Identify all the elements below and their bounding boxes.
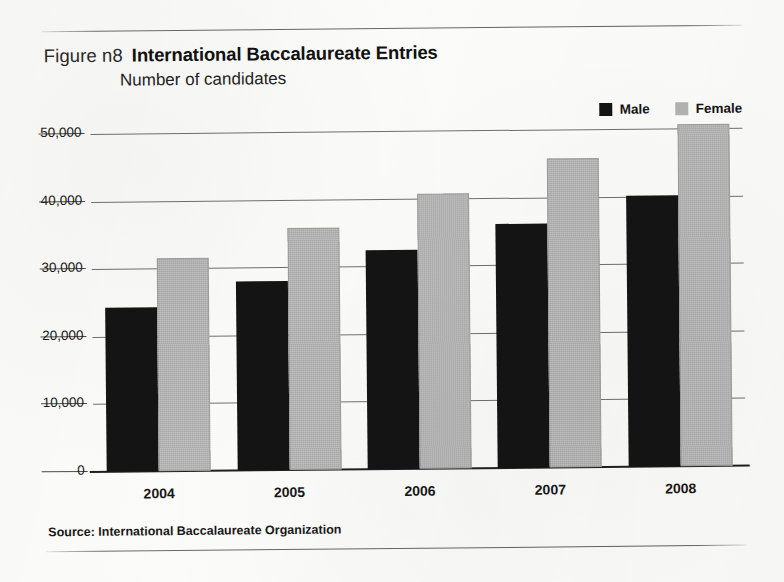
bar-series-container	[90, 128, 745, 472]
top-divider-rule	[41, 25, 741, 33]
bar-group-2006	[351, 130, 485, 469]
title-line: Figure n8 International Baccalaureate En…	[44, 40, 644, 68]
bar-female-2004[interactable]	[157, 258, 211, 471]
x-tick-label-2005: 2005	[274, 484, 305, 500]
x-tick-label-2008: 2008	[665, 480, 696, 496]
bar-male-2004[interactable]	[105, 307, 159, 472]
bar-group-2008	[612, 128, 746, 467]
legend-label-male: Male	[620, 102, 650, 117]
bar-female-2007[interactable]	[547, 158, 602, 467]
bar-male-2007[interactable]	[496, 223, 550, 468]
x-label-cell: 2004	[94, 471, 225, 503]
bar-male-2006[interactable]	[366, 250, 420, 470]
x-label-cell: 2005	[224, 469, 355, 501]
page-title: International Baccalaureate Entries	[132, 42, 438, 67]
bar-male-2008[interactable]	[626, 195, 681, 467]
bar-female-2006[interactable]	[417, 193, 472, 469]
bottom-divider-rule	[46, 545, 746, 553]
y-tick-label: 10,000	[43, 395, 84, 410]
x-label-cell: 2008	[615, 466, 746, 498]
y-tick-label: 0	[77, 463, 85, 478]
bar-group-2004	[90, 133, 224, 472]
bar-group-2007	[482, 129, 616, 468]
y-tick-label: 20,000	[42, 327, 83, 342]
legend-swatch-female	[676, 102, 689, 115]
bar-female-2005[interactable]	[287, 228, 341, 470]
y-tick-label: 50,000	[40, 125, 81, 140]
chart-legend: Male Female	[600, 101, 743, 117]
x-tick-label-2004: 2004	[143, 485, 174, 501]
figure-number-label: Figure n8	[44, 45, 123, 68]
bar-female-2008[interactable]	[677, 124, 732, 467]
legend-item-male[interactable]: Male	[600, 102, 650, 117]
y-tick-label: 40,000	[41, 192, 82, 207]
legend-label-female: Female	[696, 101, 743, 116]
x-tick-label-2007: 2007	[535, 481, 566, 497]
bar-male-2005[interactable]	[236, 281, 290, 470]
bar-group-2005	[221, 131, 355, 470]
figure-subtitle: Number of candidates	[120, 66, 644, 91]
source-note: Source: International Baccalaureate Orga…	[48, 522, 341, 539]
x-label-cell: 2007	[485, 467, 616, 499]
legend-swatch-male	[600, 103, 613, 116]
plot-area: 010,00020,00030,00040,00050,000 20042005…	[90, 128, 745, 472]
x-tick-label-2006: 2006	[404, 483, 435, 499]
figure-page: Figure n8 International Baccalaureate En…	[0, 0, 784, 582]
x-axis-labels: 20042005200620072008	[94, 466, 746, 503]
figure-heading: Figure n8 International Baccalaureate En…	[44, 40, 644, 92]
legend-item-female[interactable]: Female	[676, 101, 743, 117]
x-label-cell: 2006	[355, 468, 486, 500]
y-tick-label: 30,000	[41, 260, 82, 275]
